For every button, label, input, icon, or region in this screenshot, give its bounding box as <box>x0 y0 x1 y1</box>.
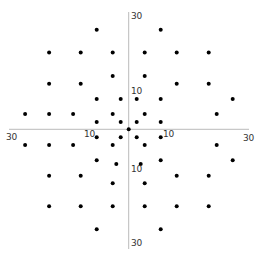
data-point <box>47 174 51 178</box>
data-point <box>175 51 179 55</box>
data-point <box>119 135 123 139</box>
data-point <box>135 135 139 139</box>
plot-area <box>0 0 260 255</box>
data-point <box>79 51 83 55</box>
data-point <box>143 112 147 116</box>
scatter-chart: 30 10 10 30 30 10 10 30 <box>0 0 260 255</box>
data-point <box>111 204 115 208</box>
data-point <box>71 143 75 147</box>
x-tick-label-10: 10 <box>163 130 174 139</box>
data-point <box>111 181 115 185</box>
data-point <box>143 51 147 55</box>
data-point <box>79 204 83 208</box>
data-point <box>175 174 179 178</box>
x-tick-label-neg10: 10 <box>84 130 95 139</box>
data-point <box>47 204 51 208</box>
data-point <box>23 143 27 147</box>
y-tick-label-10: 10 <box>131 87 142 96</box>
x-tick-label-neg30: 30 <box>6 133 17 142</box>
y-tick-label-neg10: 10 <box>131 165 142 174</box>
data-point <box>127 127 131 131</box>
data-point <box>114 162 118 166</box>
data-point <box>95 28 99 32</box>
data-point <box>111 51 115 55</box>
data-point <box>79 174 83 178</box>
data-point <box>119 97 123 101</box>
data-point <box>47 143 51 147</box>
data-point <box>47 51 51 55</box>
data-point <box>159 28 163 32</box>
data-point <box>231 97 235 101</box>
data-point <box>159 97 163 101</box>
data-point <box>215 143 219 147</box>
data-point <box>143 204 147 208</box>
data-point <box>143 181 147 185</box>
data-point <box>95 135 99 139</box>
y-tick-label-neg30: 30 <box>131 239 142 248</box>
x-tick-label-30: 30 <box>243 134 254 143</box>
data-point <box>111 112 115 116</box>
data-point <box>175 82 179 86</box>
y-tick-label-30: 30 <box>131 12 142 21</box>
data-point <box>95 158 99 162</box>
data-point <box>159 158 163 162</box>
data-point <box>143 74 147 78</box>
data-point <box>207 174 211 178</box>
data-point <box>207 82 211 86</box>
data-point <box>95 97 99 101</box>
data-point <box>79 82 83 86</box>
data-point <box>47 82 51 86</box>
data-point <box>143 143 147 147</box>
data-point <box>159 227 163 231</box>
data-point <box>71 112 75 116</box>
data-point <box>135 97 139 101</box>
data-point <box>207 51 211 55</box>
data-point <box>95 227 99 231</box>
data-point <box>111 74 115 78</box>
data-point <box>119 120 123 124</box>
data-point <box>47 112 51 116</box>
data-point <box>23 112 27 116</box>
data-point <box>95 120 99 124</box>
data-point <box>215 112 219 116</box>
data-point <box>207 204 211 208</box>
data-point <box>231 158 235 162</box>
data-point <box>159 120 163 124</box>
data-point <box>135 120 139 124</box>
data-point <box>111 143 115 147</box>
data-point <box>175 204 179 208</box>
